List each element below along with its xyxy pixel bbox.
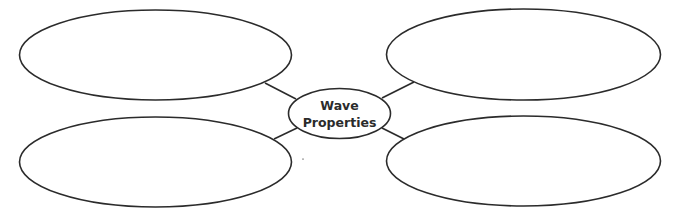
branch-top-right[interactable] <box>387 9 661 100</box>
connector-top-left <box>265 83 296 99</box>
center-label-line2: Properties <box>303 115 377 130</box>
center-node: Wave Properties <box>289 89 391 139</box>
bubble-top-left[interactable] <box>20 10 292 100</box>
bubble-top-right[interactable] <box>387 9 661 100</box>
scan-speck <box>302 159 304 160</box>
connector-top-right <box>382 82 414 98</box>
branch-bottom-left[interactable] <box>20 117 292 207</box>
bubble-bottom-right[interactable] <box>387 116 661 206</box>
branch-bottom-right[interactable] <box>387 116 661 206</box>
center-bubble <box>289 89 391 139</box>
center-label-line1: Wave <box>320 98 358 113</box>
branch-top-left[interactable] <box>20 10 292 100</box>
connector-bottom-right <box>382 128 404 139</box>
bubble-bottom-left[interactable] <box>20 117 292 207</box>
wave-properties-concept-map: Wave Properties <box>0 0 674 216</box>
connector-bottom-left <box>274 128 297 139</box>
